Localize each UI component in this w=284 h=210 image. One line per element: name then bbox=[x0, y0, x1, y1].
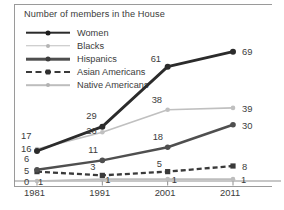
series-point-hispanics bbox=[34, 167, 40, 173]
data-label: 17 bbox=[21, 130, 31, 141]
data-label: 61 bbox=[151, 53, 161, 64]
data-label: 1 bbox=[105, 174, 110, 185]
series-point-asian-americans bbox=[230, 163, 235, 168]
series-point-hispanics bbox=[100, 158, 106, 164]
chart-plot-area: 1716650129261131613818516939308119811991… bbox=[0, 0, 284, 210]
series-line-blacks bbox=[37, 108, 233, 149]
data-label: 30 bbox=[242, 120, 252, 131]
series-point-hispanics bbox=[165, 144, 171, 150]
series-point-hispanics bbox=[230, 122, 236, 128]
data-label: 1 bbox=[38, 176, 43, 187]
data-label: 1 bbox=[172, 174, 177, 185]
data-label: 6 bbox=[24, 153, 29, 164]
series-point-native-americans bbox=[165, 177, 170, 182]
series-point-women bbox=[99, 124, 105, 130]
x-axis-label: 1991 bbox=[89, 187, 110, 198]
series-line-asian-americans bbox=[37, 166, 233, 175]
series-point-asian-americans bbox=[100, 173, 105, 178]
data-label: 0 bbox=[24, 176, 29, 187]
data-label: 11 bbox=[88, 144, 98, 155]
x-axis-label: 2011 bbox=[220, 187, 240, 198]
data-label: 5 bbox=[24, 165, 29, 176]
series-point-women bbox=[165, 64, 171, 70]
series-point-blacks bbox=[100, 130, 105, 135]
data-label: 3 bbox=[90, 161, 95, 172]
series-point-women bbox=[230, 49, 236, 55]
series-line-hispanics bbox=[37, 125, 233, 170]
data-label: 8 bbox=[242, 161, 247, 172]
data-label: 29 bbox=[86, 110, 96, 121]
x-axis-label: 1981 bbox=[24, 187, 45, 198]
data-label: 26 bbox=[86, 125, 96, 136]
series-point-asian-americans bbox=[165, 169, 170, 174]
series-point-native-americans bbox=[231, 177, 236, 182]
data-label: 38 bbox=[152, 94, 162, 105]
data-label: 18 bbox=[153, 131, 163, 142]
x-axis-label: 2001 bbox=[155, 187, 176, 198]
data-label: 1 bbox=[241, 174, 246, 185]
data-label: 39 bbox=[242, 103, 252, 114]
data-label: 69 bbox=[242, 46, 252, 57]
series-point-women bbox=[34, 148, 40, 154]
series-point-blacks bbox=[165, 107, 170, 112]
data-label: 5 bbox=[157, 158, 162, 169]
series-point-blacks bbox=[231, 106, 236, 111]
